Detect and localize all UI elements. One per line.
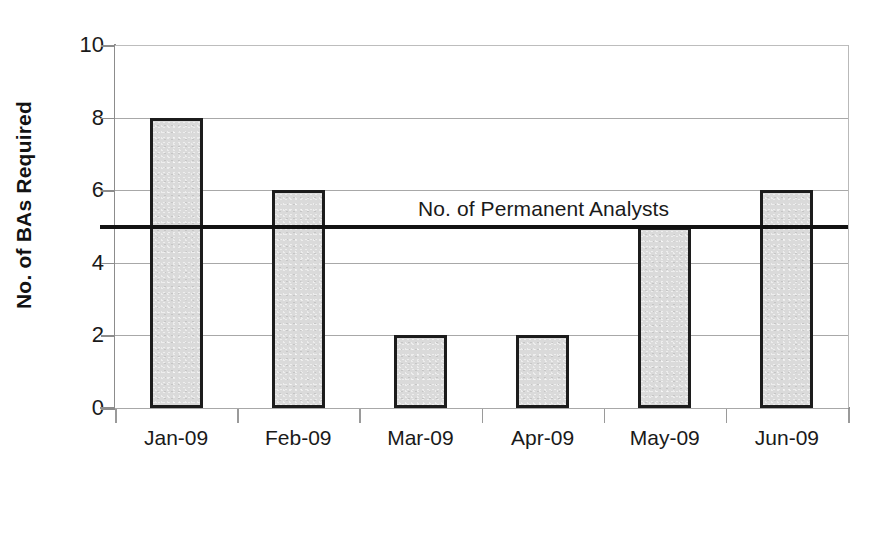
y-axis-tick-label: 0 [58, 397, 104, 419]
y-axis-tick-labels: 0246810 [48, 0, 104, 535]
y-axis-tick-mark [101, 45, 115, 47]
x-axis-tick-label: Apr-09 [482, 426, 604, 450]
bar[interactable] [638, 227, 691, 409]
y-axis-tick-mark [101, 190, 115, 192]
x-axis-tick-label: Mar-09 [359, 426, 481, 450]
bar[interactable] [516, 335, 569, 408]
y-axis-title-text: No. of BAs Required [12, 101, 36, 309]
y-axis-tick-label: 6 [58, 179, 104, 201]
y-axis-tick-label: 2 [58, 324, 104, 346]
bar[interactable] [272, 190, 325, 408]
y-axis-tick-mark [101, 118, 115, 120]
bar[interactable] [394, 335, 447, 408]
x-axis-tick-mark [359, 409, 361, 423]
reference-line [100, 225, 848, 229]
y-axis-tick-mark [101, 408, 115, 410]
x-axis-tick-mark [115, 409, 117, 423]
y-axis-tick-label: 8 [58, 107, 104, 129]
y-axis-title: No. of BAs Required [0, 0, 48, 410]
x-axis-tick-mark [237, 409, 239, 423]
gridline [115, 335, 848, 336]
gridline [115, 190, 848, 191]
y-axis-tick-mark [101, 335, 115, 337]
bar[interactable] [760, 190, 813, 408]
gridline [115, 45, 848, 46]
gridline [115, 118, 848, 119]
y-axis-tick-label: 4 [58, 252, 104, 274]
x-axis-tick-label: Jun-09 [726, 426, 848, 450]
x-axis-tick-label: Jan-09 [115, 426, 237, 450]
x-axis-tick-mark [604, 409, 606, 423]
x-axis-tick-label: Feb-09 [237, 426, 359, 450]
x-axis-tick-mark [482, 409, 484, 423]
x-axis-tick-mark [848, 409, 850, 423]
gridline [115, 263, 848, 264]
reference-line-label: No. of Permanent Analysts [418, 197, 669, 221]
y-axis-tick-label: 10 [58, 34, 104, 56]
bar[interactable] [150, 118, 203, 408]
y-axis-tick-mark [101, 263, 115, 265]
x-axis-tick-mark [726, 409, 728, 423]
x-axis-tick-label: May-09 [604, 426, 726, 450]
bar-chart-figure: No. of BAs Required 0246810 No. of Perma… [0, 0, 871, 535]
